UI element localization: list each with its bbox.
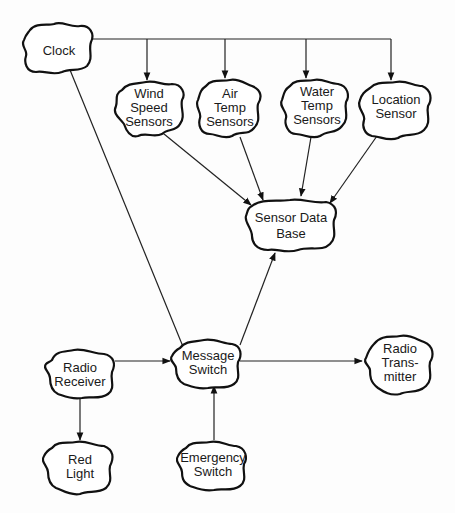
node-label: Air xyxy=(222,86,239,101)
node-label: Switch xyxy=(189,362,227,377)
node-wind-speed-sensors: Wind Speed Sensors xyxy=(115,82,184,137)
node-air-temp-sensors: Air Temp Sensors xyxy=(197,80,261,138)
diagram-canvas: Clock Wind Speed Sensors Air Temp Sensor… xyxy=(0,0,455,513)
node-label: Sensors xyxy=(206,114,254,129)
node-label: Trans- xyxy=(381,355,418,370)
node-label: Radio xyxy=(63,360,97,375)
node-label: Light xyxy=(66,466,95,481)
node-label: Water xyxy=(300,84,335,99)
node-label: Speed xyxy=(130,100,168,115)
edge-water-sdb xyxy=(301,137,311,196)
node-label: Switch xyxy=(194,464,232,479)
node-label: Clock xyxy=(43,43,76,58)
edge-wind-sdb xyxy=(153,125,251,205)
node-label: Message xyxy=(182,348,235,363)
node-label: Temp xyxy=(214,100,246,115)
node-label: Sensor Data xyxy=(255,210,328,225)
node-label: Sensors xyxy=(293,112,341,127)
node-label: Location xyxy=(371,92,420,107)
node-location-sensor: Location Sensor xyxy=(359,82,430,140)
node-label: Emergency xyxy=(180,450,246,465)
node-sensor-data-base: Sensor Data Base xyxy=(246,200,336,252)
node-label: Temp xyxy=(301,98,333,113)
edge-message-sdb xyxy=(240,253,275,345)
edge-air-sdb xyxy=(240,137,263,200)
node-label: Red xyxy=(68,452,92,467)
node-clock: Clock xyxy=(23,23,93,74)
node-emergency-switch: Emergency Switch xyxy=(177,442,246,491)
node-label: Sensor xyxy=(375,106,417,121)
node-label: Wind xyxy=(134,86,164,101)
node-red-light: Red Light xyxy=(43,442,113,495)
node-water-temp-sensors: Water Temp Sensors xyxy=(281,80,348,138)
node-label: Base xyxy=(276,226,306,241)
node-radio-transmitter: Radio Trans- mitter xyxy=(365,336,433,395)
node-label: Radio xyxy=(383,341,417,356)
node-radio-receiver: Radio Receiver xyxy=(45,350,114,399)
node-label: Sensors xyxy=(125,114,173,129)
node-label: Receiver xyxy=(54,374,106,389)
node-message-switch: Message Switch xyxy=(171,340,241,389)
node-label: mitter xyxy=(384,369,417,384)
